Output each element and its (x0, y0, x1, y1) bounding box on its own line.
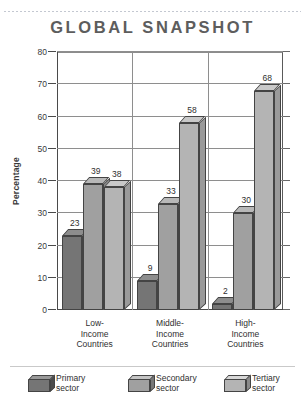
bar-front-face (212, 304, 232, 310)
bar-front-face (233, 213, 253, 310)
legend-label-line1: Primary (56, 373, 85, 383)
category-label-line: High- (202, 318, 288, 329)
legend-item-primary-sector[interactable]: Primarysector (28, 373, 85, 393)
legend-label: Tertiarysector (252, 373, 280, 393)
category-label-line: Income (202, 329, 288, 340)
x-axis-category-label: Middle-IncomeCountries (127, 318, 213, 350)
bar (158, 204, 178, 310)
y-right-tick-50 (283, 148, 290, 149)
bar-value-label: 30 (242, 195, 251, 205)
y-axis-label: Percentage (11, 141, 21, 221)
bar (233, 213, 253, 310)
y-tick-70 (48, 83, 56, 84)
y-right-tick-70 (283, 83, 290, 84)
bar (179, 123, 199, 310)
plot-area: 01020304050607080 2339389335823068 (57, 52, 283, 310)
gridline-60 (57, 116, 283, 117)
y-tick-40 (48, 180, 56, 181)
legend-swatch-cube-icon (224, 375, 246, 392)
category-label-line: Income (52, 329, 138, 340)
bar (83, 184, 103, 310)
y-right-tick-0 (283, 309, 290, 310)
y-tick-60 (48, 116, 56, 117)
cube-front-face (224, 379, 246, 392)
category-label-line: Countries (202, 339, 288, 350)
y-tick-label-70: 70 (21, 79, 47, 89)
cube-front-face (128, 379, 150, 392)
legend-label-line2: sector (56, 383, 85, 393)
y-tick-30 (48, 212, 56, 213)
y-right-tick-20 (283, 245, 290, 246)
cube-top-face (28, 375, 55, 380)
bar-front-face (104, 187, 124, 310)
chart-figure: Percentage 01020304050607080 23393893358… (0, 0, 305, 413)
category-label-line: Low- (52, 318, 138, 329)
category-label-line: Countries (127, 339, 213, 350)
bar (212, 304, 232, 310)
bar-side-face (199, 117, 206, 310)
y-tick-label-30: 30 (21, 208, 47, 218)
y-right-tick-60 (283, 116, 290, 117)
category-label-line: Countries (52, 339, 138, 350)
bar (137, 281, 157, 310)
bar (254, 91, 274, 310)
y-tick-label-80: 80 (21, 47, 47, 57)
x-axis-category-label: High-IncomeCountries (202, 318, 288, 350)
category-label-line: Income (127, 329, 213, 340)
bar-value-label: 68 (263, 73, 272, 83)
y-tick-20 (48, 245, 56, 246)
y-tick-label-20: 20 (21, 241, 47, 251)
y-right-tick-80 (283, 51, 290, 52)
bar-value-label: 9 (148, 263, 153, 273)
y-tick-label-40: 40 (21, 176, 47, 186)
gridline-70 (57, 83, 283, 84)
bar-front-face (137, 281, 157, 310)
legend-swatch-cube-icon (28, 375, 50, 392)
gridline-80 (57, 51, 283, 52)
bar-front-face (62, 236, 82, 310)
legend-label: Primarysector (56, 373, 85, 393)
gridline-50 (57, 148, 283, 149)
cube-front-face (28, 379, 50, 392)
y-tick-label-50: 50 (21, 144, 47, 154)
bar-side-face (124, 181, 131, 310)
y-tick-0 (48, 309, 56, 310)
y-tick-label-0: 0 (21, 305, 47, 315)
cube-top-face (128, 375, 155, 380)
bar-front-face (254, 91, 274, 310)
bar-value-label: 39 (91, 166, 100, 176)
bar-side-face (274, 84, 281, 310)
category-label-line: Middle- (127, 318, 213, 329)
bar-value-label: 38 (112, 169, 121, 179)
bar-value-label: 2 (223, 286, 228, 296)
legend-label-line2: sector (252, 383, 280, 393)
y-right-tick-30 (283, 212, 290, 213)
bar-value-label: 58 (187, 105, 196, 115)
legend-label: Secondarysector (156, 373, 197, 393)
category-separator-1 (132, 52, 133, 310)
y-tick-50 (48, 148, 56, 149)
bar-front-face (158, 204, 178, 310)
y-tick-10 (48, 277, 56, 278)
cube-top-face (224, 375, 251, 380)
y-tick-80 (48, 51, 56, 52)
bar-value-label: 23 (70, 218, 79, 228)
bar-value-label: 33 (166, 186, 175, 196)
y-tick-label-10: 10 (21, 273, 47, 283)
category-separator-2 (208, 52, 209, 310)
y-right-tick-10 (283, 277, 290, 278)
y-right-tick-40 (283, 180, 290, 181)
y-tick-label-60: 60 (21, 112, 47, 122)
legend-swatch-cube-icon (128, 375, 150, 392)
bar-front-face (83, 184, 103, 310)
x-axis-category-label: Low-IncomeCountries (52, 318, 138, 350)
legend-label-line1: Secondary (156, 373, 197, 383)
legend-label-line2: sector (156, 383, 197, 393)
chart-legend: PrimarysectorSecondarysectorTertiarysect… (10, 366, 295, 405)
bar-front-face (179, 123, 199, 310)
legend-item-tertiary-sector[interactable]: Tertiarysector (224, 373, 280, 393)
legend-item-secondary-sector[interactable]: Secondarysector (128, 373, 197, 393)
legend-label-line1: Tertiary (252, 373, 280, 383)
bar (62, 236, 82, 310)
bar (104, 187, 124, 310)
